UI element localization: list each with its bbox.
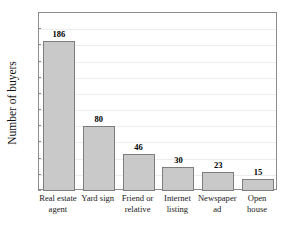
x-label-line: Friend or <box>118 193 158 204</box>
bar-value-label: 186 <box>34 30 84 39</box>
y-tick-mark <box>38 77 41 78</box>
x-axis-category-label: Yard sign <box>78 193 118 204</box>
bar[interactable] <box>162 167 194 191</box>
y-tick-mark <box>38 174 41 175</box>
bar-value-label: 80 <box>74 115 124 124</box>
y-tick-mark <box>38 190 41 191</box>
x-label-line: Internet <box>158 193 198 204</box>
x-axis-category-label: Newspaperad <box>197 193 237 214</box>
y-tick-mark <box>38 28 41 29</box>
x-axis-category-label: Friend orrelative <box>118 193 158 214</box>
bar-value-label: 15 <box>233 168 283 177</box>
plot-area: 1868046302315 <box>38 12 277 190</box>
bar[interactable] <box>43 41 75 191</box>
x-label-line: Open <box>237 193 277 204</box>
y-tick-mark <box>38 12 41 13</box>
chart-title-remnant <box>0 0 283 7</box>
bar[interactable] <box>242 179 274 191</box>
x-label-line: Newspaper <box>197 193 237 204</box>
x-label-line: relative <box>118 204 158 215</box>
x-label-line: Yard sign <box>78 193 118 204</box>
x-axis-category-label: Openhouse <box>237 193 277 214</box>
x-label-line: agent <box>38 204 78 215</box>
y-tick-mark <box>38 158 41 159</box>
bar-value-label: 46 <box>114 143 164 152</box>
x-label-line: ad <box>197 204 237 215</box>
y-tick-mark <box>38 141 41 142</box>
bar[interactable] <box>202 172 234 191</box>
bar[interactable] <box>123 154 155 191</box>
x-axis-category-label: Real estateagent <box>38 193 78 214</box>
y-tick-mark <box>38 61 41 62</box>
y-tick-mark <box>38 109 41 110</box>
x-label-line: Real estate <box>38 193 78 204</box>
x-label-line: listing <box>158 204 198 215</box>
y-tick-mark <box>38 44 41 45</box>
x-label-line: house <box>237 204 277 215</box>
bar-chart: Number of buyers 1868046302315 020406080… <box>0 0 283 226</box>
y-tick-mark <box>38 125 41 126</box>
y-tick-mark <box>38 93 41 94</box>
x-axis-category-label: Internetlisting <box>158 193 198 214</box>
bar[interactable] <box>83 126 115 191</box>
y-axis-title: Number of buyers <box>6 28 18 178</box>
